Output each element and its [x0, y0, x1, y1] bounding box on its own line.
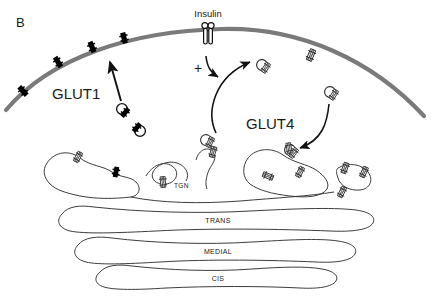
tgn-glut4-transporter [72, 150, 84, 163]
arrow-glut1-to-membrane [110, 62, 121, 101]
tgn-lobe-left [44, 153, 139, 199]
arrow-glut4-exocytosis [212, 62, 250, 133]
insulin-receptor [202, 23, 214, 44]
figure-panel-b: B Insulin GLUT1 [0, 0, 436, 303]
tgn-tubule-center [146, 162, 188, 184]
insulin-label: Insulin [194, 8, 221, 19]
tgn-lobe-right [244, 150, 328, 197]
cisterna-label-trans: TRANS [205, 217, 230, 224]
glut1-vesicle [117, 104, 132, 119]
cisterna-label-medial: MEDIAL [204, 248, 232, 255]
cisterna-label-tgn: TGN [174, 182, 189, 189]
cisterna-cis: CIS [96, 265, 337, 289]
tgn-embedded-transporters [72, 142, 370, 198]
glut4-vesicle [256, 58, 273, 75]
trans-golgi-network [44, 149, 371, 203]
tgn-glut4-transporter [294, 165, 306, 178]
plus-sign: + [194, 60, 202, 76]
arrow-insulin-signal [206, 56, 218, 77]
membrane-glut4-transporter [305, 48, 317, 62]
tgn-glut4-transporter [262, 170, 275, 181]
arrow-glut4-endocytosis [300, 104, 329, 148]
glut1-label: GLUT1 [52, 85, 100, 102]
plasma-membrane [6, 29, 424, 116]
cisterna-trans: TRANS [59, 206, 374, 233]
panel-label: B [16, 15, 25, 30]
tgn-glut4-transporter [159, 176, 168, 187]
glut4-label: GLUT4 [246, 115, 294, 132]
glut4-vesicle [324, 85, 341, 102]
glut1-vesicle [131, 121, 146, 136]
plasma-membrane-curve [6, 29, 424, 116]
cisterna-medial: MEDIAL [75, 237, 356, 264]
diagram-canvas: B Insulin GLUT1 [0, 0, 436, 303]
tgn-glut4-transporter [339, 162, 350, 175]
cisterna-label-cis: CIS [212, 275, 225, 282]
